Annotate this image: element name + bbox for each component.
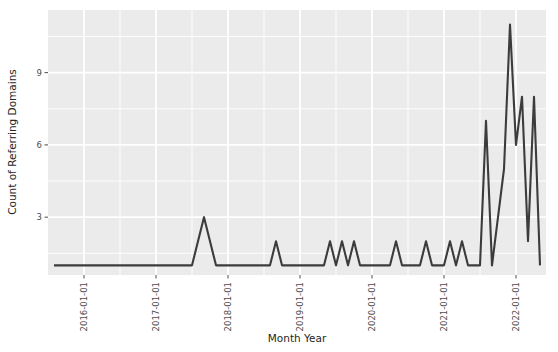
y-tick-label: 6 [37,140,42,150]
y-tick-label: 3 [37,212,42,222]
x-axis-title: Month Year [268,332,327,344]
x-tick-label: 2021-01-01 [439,282,449,331]
x-tick-label: 2016-01-01 [79,282,89,331]
y-tick-label: 9 [37,68,42,78]
x-tick-label: 2019-01-01 [295,282,305,331]
line-chart-canvas: 369 2016-01-012017-01-012018-01-012019-0… [0,0,558,352]
x-tick-label: 2017-01-01 [151,282,161,331]
x-tick-label: 2020-01-01 [367,282,377,331]
x-tick-label: 2018-01-01 [223,282,233,331]
chart-figure: 369 2016-01-012017-01-012018-01-012019-0… [0,0,558,352]
y-axis-title: Count of Referring Domains [6,69,18,215]
plot-panel-background [48,10,546,275]
x-tick-label: 2022-01-01 [511,282,521,331]
